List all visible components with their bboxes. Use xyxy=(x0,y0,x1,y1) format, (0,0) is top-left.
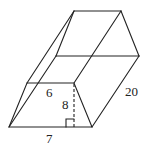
top-base-label: 6 xyxy=(46,85,53,100)
length-label: 20 xyxy=(125,84,138,99)
prism-drawing: 6 8 7 20 xyxy=(0,0,145,145)
height-label: 8 xyxy=(62,97,69,112)
right-angle-marker xyxy=(66,119,74,127)
back-right-edge xyxy=(121,11,139,56)
lateral-edge-top-left xyxy=(27,11,74,83)
lateral-edge-top-right xyxy=(74,11,121,83)
bottom-base-label: 7 xyxy=(46,131,53,145)
prism-diagram: 6 8 7 20 xyxy=(0,0,145,145)
